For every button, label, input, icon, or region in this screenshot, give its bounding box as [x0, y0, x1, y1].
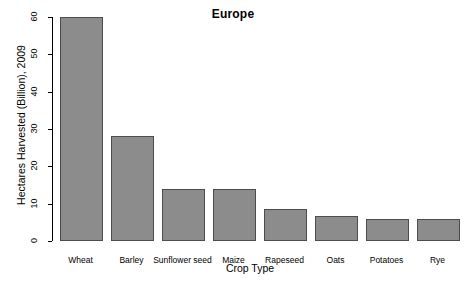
bar [315, 216, 358, 241]
y-tick-mark [48, 17, 52, 18]
bar-chart: Europe Hectares Harvested (Billion), 200… [0, 0, 466, 284]
bar [417, 219, 460, 241]
y-tick-label: 10 [30, 192, 39, 214]
y-tick-mark [48, 92, 52, 93]
bar [162, 189, 205, 241]
bar [60, 17, 103, 241]
y-tick-label: 40 [30, 80, 39, 102]
bar [366, 219, 409, 241]
bar [111, 136, 154, 241]
plot-area: 0102030405060 WheatBarleySunflower seedM… [52, 10, 462, 242]
bar [264, 209, 307, 241]
y-tick-mark [48, 129, 52, 130]
y-tick-label: 30 [30, 118, 39, 140]
y-tick-mark [48, 166, 52, 167]
y-tick-mark [48, 54, 52, 55]
y-tick-label: 50 [30, 43, 39, 65]
y-axis-label: Hectares Harvested (Billion), 2009 [15, 15, 27, 235]
y-tick-label: 20 [30, 155, 39, 177]
y-tick-mark [48, 204, 52, 205]
x-axis-label: Crop Type [40, 262, 460, 274]
bar [213, 189, 256, 241]
y-tick-mark [48, 241, 52, 242]
y-tick-label: 0 [30, 230, 39, 252]
y-tick-label: 60 [30, 6, 39, 28]
bar-series [53, 10, 462, 242]
